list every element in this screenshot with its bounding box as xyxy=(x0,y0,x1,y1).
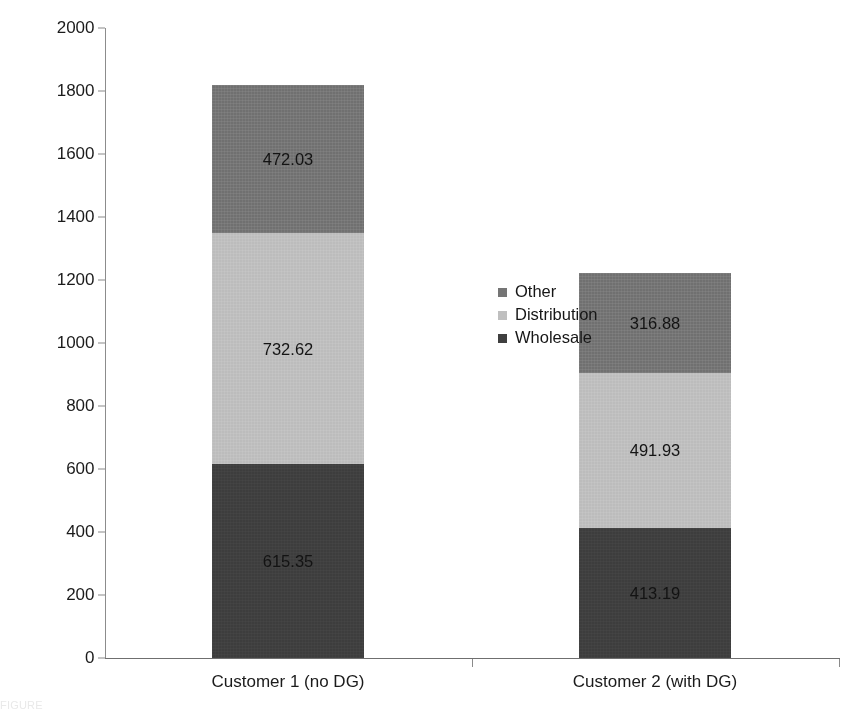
legend-item[interactable]: Distribution xyxy=(498,303,598,326)
bar-segment-value-label: 615.35 xyxy=(212,552,364,571)
y-tick-label: 1800 xyxy=(57,81,104,101)
legend-swatch-icon xyxy=(498,334,507,343)
bar-segment-value-label: 472.03 xyxy=(212,150,364,169)
y-axis-line xyxy=(105,28,106,658)
legend-item[interactable]: Other xyxy=(498,280,598,303)
x-axis-category-label: Customer 2 (with DG) xyxy=(573,672,737,692)
y-tick-mark xyxy=(98,595,105,596)
bar-segment-value-label: 491.93 xyxy=(579,441,731,460)
y-tick-mark xyxy=(98,280,105,281)
x-axis-tick-end xyxy=(839,659,840,667)
bar-stack[interactable]: 472.03732.62615.35 xyxy=(212,85,364,658)
y-tick-label: 1200 xyxy=(57,270,104,290)
y-tick-mark xyxy=(98,532,105,533)
bar-segment[interactable]: 615.35 xyxy=(212,464,364,658)
figure-stacked-bar-chart: Electricity bill (per annum) 02004006008… xyxy=(0,0,851,711)
bar-segment-value-label: 316.88 xyxy=(579,313,731,332)
bar-stack[interactable]: 316.88491.93413.19 xyxy=(579,273,731,658)
y-tick-label: 1600 xyxy=(57,144,104,164)
legend: OtherDistributionWholesale xyxy=(498,280,598,349)
y-tick-label: 1000 xyxy=(57,333,104,353)
bar-segment-value-label: 732.62 xyxy=(212,339,364,358)
x-axis-tick-middle xyxy=(472,659,473,667)
bar-segment[interactable]: 732.62 xyxy=(212,233,364,464)
caption-strip: FIGURE xyxy=(0,700,851,711)
bar-segment[interactable]: 491.93 xyxy=(579,373,731,528)
x-axis-category-label: Customer 1 (no DG) xyxy=(211,672,364,692)
y-tick-mark xyxy=(98,28,105,29)
legend-item-label: Distribution xyxy=(515,305,598,324)
y-tick-mark xyxy=(98,154,105,155)
y-tick-label: 2000 xyxy=(57,18,104,38)
legend-swatch-icon xyxy=(498,288,507,297)
y-tick-label: 1400 xyxy=(57,207,104,227)
y-tick-mark xyxy=(98,406,105,407)
legend-item[interactable]: Wholesale xyxy=(498,326,598,349)
bar-segment[interactable]: 413.19 xyxy=(579,528,731,658)
bar-segment[interactable]: 316.88 xyxy=(579,273,731,373)
y-tick-mark xyxy=(98,91,105,92)
plot-area: 0200400600800100012001400160018002000 47… xyxy=(105,28,840,658)
bar-segment-value-label: 413.19 xyxy=(579,583,731,602)
caption-text: FIGURE xyxy=(0,700,851,711)
legend-item-label: Other xyxy=(515,282,556,301)
legend-item-label: Wholesale xyxy=(515,328,592,347)
legend-swatch-icon xyxy=(498,311,507,320)
y-tick-mark xyxy=(98,343,105,344)
bar-segment[interactable]: 472.03 xyxy=(212,85,364,234)
y-tick-mark xyxy=(98,469,105,470)
y-tick-mark xyxy=(98,658,105,659)
y-tick-mark xyxy=(98,217,105,218)
